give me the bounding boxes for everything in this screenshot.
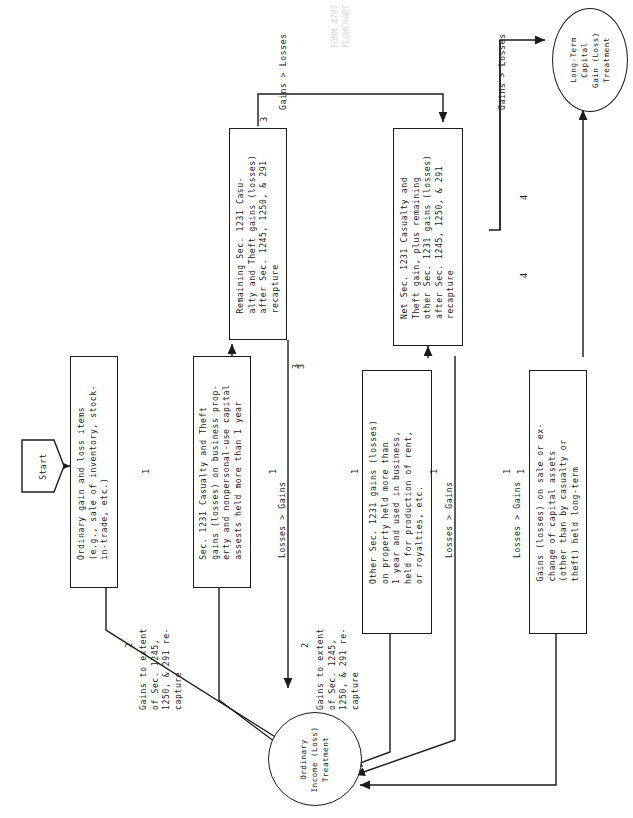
step-marker-recapture-left: 2 xyxy=(124,642,134,648)
terminal-ordinary-income-treatment[interactable]: Ordinary Income (Loss) Treatment xyxy=(268,712,362,806)
edge-ordinary-items-to-ordinary-income xyxy=(106,588,296,750)
step-marker-losses-capital: 1 xyxy=(502,468,512,474)
step-marker-capital-assets: 1 xyxy=(516,468,526,474)
node-net-sec1231[interactable]: Net Sec. 1231 Casualty and Theft gain, p… xyxy=(393,128,463,346)
edge-label-gains-gt-losses-net: Gains > Losses xyxy=(497,33,509,110)
edge-label-recapture-right: Gains to extent of Sec. 1245, 1250, & 29… xyxy=(315,628,361,710)
edge-label-losses-gt-gains-capital: Losses > Gains xyxy=(512,481,524,558)
edge-label-gains-gt-losses-casualty: Gains > Losses xyxy=(278,33,290,110)
step-marker-net-upper: 4 xyxy=(519,194,529,200)
start-node[interactable]: Start xyxy=(22,440,64,492)
terminal-long-term-capital-gain-treatment-text: Long-Term Capital Gain (Loss) Treatment xyxy=(568,32,612,88)
step-marker-recapture-right: 2 xyxy=(300,642,310,648)
node-remaining-sec1231-text: Remaining Sec. 1231 Casu- alty and Theft… xyxy=(235,155,281,314)
node-ordinary-items-text: Ordinary gain and loss items (e.g., sale… xyxy=(77,384,112,559)
edge-label-losses-gt-gains-casualty: Losses > Gains xyxy=(277,481,289,558)
step-marker-remaining-sec1231: 3 xyxy=(259,116,269,122)
terminal-ordinary-income-treatment-text: Ordinary Income (Loss) Treatment xyxy=(299,726,332,792)
node-other-sec1231-gains-text: Other Sec. 1231 gains (losses) on proper… xyxy=(368,420,426,584)
edge-label-losses-gt-gains-other: Losses > Gains xyxy=(444,481,456,558)
start-label: Start xyxy=(39,453,48,480)
edge-label-recapture-left: Gains to extent of Sec. 1245, 1250, & 29… xyxy=(138,628,184,710)
step-marker-ordinary-items: 1 xyxy=(141,468,151,474)
terminal-long-term-capital-gain-treatment[interactable]: Long-Term Capital Gain (Loss) Treatment xyxy=(552,8,628,112)
node-other-sec1231-gains[interactable]: Other Sec. 1231 gains (losses) on proper… xyxy=(362,370,432,634)
step-marker-net-lower: 4 xyxy=(519,272,529,278)
node-net-sec1231-text: Net Sec. 1231 Casualty and Theft gain, p… xyxy=(399,155,457,319)
node-ordinary-items[interactable]: Ordinary gain and loss items (e.g., sale… xyxy=(70,356,118,588)
step-marker-casualty-theft: 1 xyxy=(268,468,278,474)
node-remaining-sec1231[interactable]: Remaining Sec. 1231 Casu- alty and Theft… xyxy=(229,128,287,340)
step-marker-casualty-entry: 3 xyxy=(291,363,301,369)
flowchart-canvas: FORM 4797 FLOWCHART Start 1 Ordinary gai… xyxy=(0,0,633,818)
node-sec1231-casualty-theft-text: Sec. 1231 Casualty and Theft gains (loss… xyxy=(199,384,245,559)
node-sec1231-casualty-theft[interactable]: Sec. 1231 Casualty and Theft gains (loss… xyxy=(193,356,251,588)
node-capital-assets[interactable]: Gains (losses) on sale or ex- change of … xyxy=(529,370,587,634)
step-marker-losses-other: 1 xyxy=(429,468,439,474)
watermark-text: FORM 4797 FLOWCHART xyxy=(330,5,352,48)
node-capital-assets-text: Gains (losses) on sale or ex- change of … xyxy=(535,423,581,582)
step-marker-other-sec1231: 1 xyxy=(350,468,360,474)
